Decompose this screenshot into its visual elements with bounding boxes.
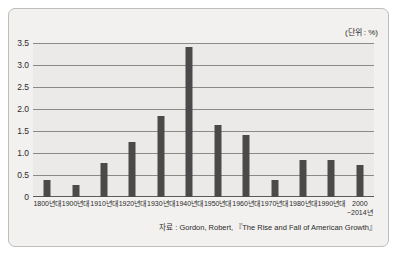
bar-slot xyxy=(289,43,317,197)
x-axis-tick-label: 1920년대 xyxy=(118,199,146,208)
unit-label: (단위 : %) xyxy=(345,26,378,37)
bar-slot xyxy=(90,43,118,197)
x-axis-tick-label: 1990년대 xyxy=(317,199,345,208)
y-axis-tick-label: 1.5 xyxy=(17,127,29,136)
y-axis-tick-label: 2.5 xyxy=(17,83,29,92)
plot-area: 00.51.01.52.02.53.03.5 xyxy=(33,43,374,197)
bar[interactable] xyxy=(72,185,79,197)
x-axis-tick-label: 1970년대 xyxy=(260,199,288,208)
bar-slot xyxy=(175,43,203,197)
bar-slot xyxy=(232,43,260,197)
bar[interactable] xyxy=(157,116,164,197)
x-axis-tick-label: 1930년대 xyxy=(147,199,175,208)
bar-slot xyxy=(204,43,232,197)
bar[interactable] xyxy=(356,165,363,197)
bar[interactable] xyxy=(299,160,306,197)
bar[interactable] xyxy=(214,125,221,197)
bar-slot xyxy=(61,43,89,197)
bar-series xyxy=(33,43,374,197)
bar-slot xyxy=(346,43,374,197)
y-axis-tick-label: 3.5 xyxy=(17,39,29,48)
bar-slot xyxy=(33,43,61,197)
y-axis-tick-label: 2.0 xyxy=(17,105,29,114)
bar[interactable] xyxy=(243,135,250,197)
y-axis-tick-label: 1.0 xyxy=(17,149,29,158)
bar-slot xyxy=(317,43,345,197)
y-axis-tick-label: 0 xyxy=(24,193,29,202)
bar-slot xyxy=(118,43,146,197)
x-axis-tick-label: 1950년대 xyxy=(204,199,232,208)
y-axis-tick-label: 3.0 xyxy=(17,61,29,70)
bar[interactable] xyxy=(101,163,108,197)
x-axis-tick-label: 1960년대 xyxy=(232,199,260,208)
bar[interactable] xyxy=(186,47,193,197)
bar-slot xyxy=(260,43,288,197)
x-axis-tick-label: 1980년대 xyxy=(289,199,317,208)
bar[interactable] xyxy=(129,142,136,197)
x-axis-tick-label: 1900년대 xyxy=(61,199,89,208)
x-axis-tick-label: 1940년대 xyxy=(175,199,203,208)
y-axis-tick-label: 0.5 xyxy=(17,171,29,180)
x-axis-tick-label: 1800년대 xyxy=(33,199,61,208)
bar[interactable] xyxy=(44,180,51,197)
x-axis-tick-label: 2000 ~2014년 xyxy=(346,199,374,217)
source-note: 자료 : Gordon, Robert, 『The Rise and Fall … xyxy=(9,221,376,232)
bar[interactable] xyxy=(271,180,278,197)
x-axis-tick-label: 1910년대 xyxy=(90,199,118,208)
chart-card: (단위 : %) 00.51.01.52.02.53.03.5 1800년대19… xyxy=(8,8,389,247)
bar-slot xyxy=(147,43,175,197)
bar[interactable] xyxy=(328,160,335,197)
